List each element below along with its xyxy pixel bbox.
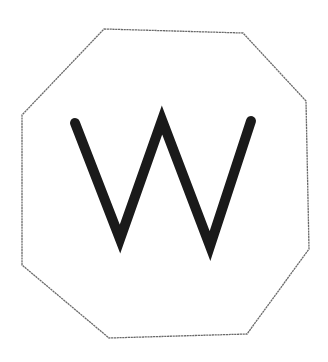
drawing-canvas: W [0, 0, 328, 362]
letter-w-stroke [75, 120, 251, 246]
octagon-letter-diagram [0, 0, 328, 362]
octagon-outline [22, 29, 309, 338]
